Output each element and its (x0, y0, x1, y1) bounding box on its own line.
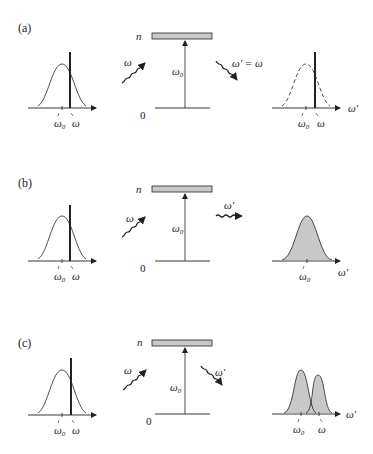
excited-level-bar (152, 33, 212, 39)
transition-omega0-label: ω0 (170, 381, 182, 395)
incident-spectrum-c: ω0 ω (28, 358, 96, 438)
level-diagram-c: n 0 ω0 ω ω' (123, 336, 226, 427)
transition-omega0-label: ω0 (172, 222, 184, 236)
level-0-label: 0 (146, 415, 152, 427)
outgoing-photon-label: ω' (224, 199, 235, 211)
level-0-label: 0 (140, 109, 146, 121)
panel-label-c: (c) (18, 336, 31, 350)
level-diagram-b: n 0 ω0 ω ω' (122, 183, 242, 274)
level-n-label: n (136, 30, 142, 42)
transition-omega0-label: ω0 (172, 65, 184, 79)
incoming-photon-label: ω (124, 56, 132, 68)
panel-b: (b) ω0 ω n 0 ω0 ω ω' (18, 176, 349, 284)
emitted-spectrum-b: ω0 ω' (272, 216, 349, 284)
omega0-label: ω0 (299, 270, 311, 284)
level-n-label: n (137, 336, 143, 348)
omega0-label: ω0 (54, 270, 66, 284)
omega0-label: ω0 (298, 117, 310, 131)
omega-label: ω (72, 117, 80, 129)
level-n-label: n (136, 183, 142, 195)
omega0-label: ω0 (293, 423, 305, 437)
incoming-photon-label: ω (124, 364, 132, 376)
excited-level-bar (152, 340, 212, 346)
incident-spectrum-b: ω0 ω (28, 205, 96, 284)
outgoing-photon-label: ω' (215, 366, 226, 378)
outgoing-photon-arrow (216, 215, 242, 217)
panel-label-a: (a) (18, 21, 31, 35)
panel-label-b: (b) (18, 176, 32, 190)
emitted-spectrum-c: ω0 ω ω' (272, 370, 357, 437)
omega0-label: ω0 (54, 117, 66, 131)
absorption-profile-curve (38, 370, 86, 413)
emitted-spectrum-a: ω0 ω ω' (272, 52, 359, 131)
panel-c: (c) ω0 ω n 0 ω0 ω ω' (18, 336, 357, 438)
absorption-profile-curve (38, 64, 86, 106)
omega-label: ω (318, 423, 326, 435)
omega-prime-axis-label: ω' (348, 102, 359, 114)
excited-level-bar (152, 186, 212, 192)
omega-prime-axis-label: ω' (346, 408, 357, 420)
omega-label: ω (72, 424, 80, 436)
incoming-photon-label: ω (126, 212, 134, 224)
omega-label: ω (317, 117, 325, 129)
outgoing-photon-label: ω' = ω (232, 57, 263, 69)
omega-prime-axis-label: ω' (338, 266, 349, 278)
level-0-label: 0 (140, 262, 146, 274)
dashed-profile-curve (282, 64, 330, 106)
resonance-fluorescence-diagram: (a) ω0 ω n 0 ω0 ω ω' = ω (0, 0, 373, 454)
omega-label: ω (72, 270, 80, 282)
omega0-label: ω0 (54, 424, 66, 438)
incident-spectrum-a: ω0 ω (28, 52, 96, 131)
panel-a: (a) ω0 ω n 0 ω0 ω ω' = ω (18, 21, 359, 131)
level-diagram-a: n 0 ω0 ω ω' = ω (122, 30, 263, 121)
absorption-profile-curve (38, 216, 86, 259)
